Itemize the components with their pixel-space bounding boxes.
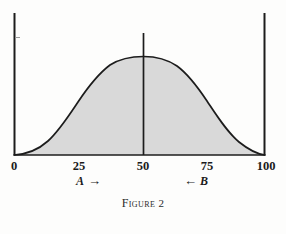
figure-container: 0 25 50 75 100 A → ← B Figure 2 <box>0 0 286 234</box>
x-tick-label-0: 0 <box>11 160 17 173</box>
x-tick-label-75: 75 <box>201 160 214 173</box>
arrow-right-icon: → <box>88 174 100 187</box>
figure-caption-number: 2 <box>158 197 164 209</box>
region-b-annotation: ← B <box>184 174 208 187</box>
region-a-label: A <box>76 175 84 187</box>
x-tick-label-100: 100 <box>257 160 276 173</box>
curve-fill-area <box>14 57 265 156</box>
region-a-annotation: A → <box>76 174 100 187</box>
region-b-label: B <box>200 175 208 187</box>
x-tick-label-50: 50 <box>137 160 150 173</box>
arrow-left-icon: ← <box>184 174 196 187</box>
figure-caption-word: Figure <box>122 196 156 210</box>
figure-caption: Figure 2 <box>122 196 165 211</box>
x-tick-label-25: 25 <box>73 160 86 173</box>
